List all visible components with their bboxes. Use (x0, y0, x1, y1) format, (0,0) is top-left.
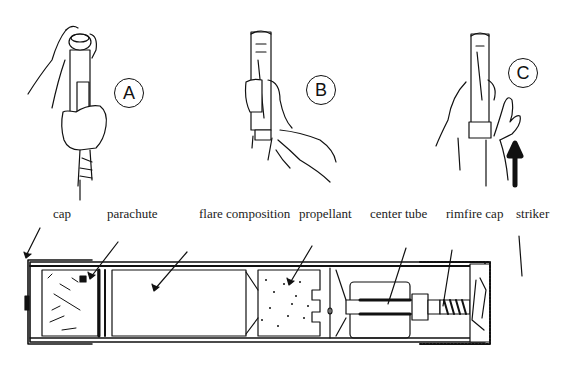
label-parachute: parachute (107, 206, 158, 222)
label-rimfire-cap: rimfire cap (446, 206, 503, 222)
label-flare-composition: flare composition (199, 206, 290, 222)
step-a-badge: A (114, 78, 144, 108)
step-c-label: C (517, 63, 530, 84)
step-b-drawing (246, 31, 337, 182)
step-c-drawing (436, 33, 520, 186)
flare-diagram-drawing (0, 0, 575, 368)
upward-arrow-icon (509, 143, 521, 185)
label-center-tube: center tube (370, 206, 427, 222)
step-c-badge: C (508, 58, 538, 88)
step-b-badge: B (306, 75, 336, 105)
label-cap: cap (53, 206, 71, 222)
step-b-label: B (315, 80, 327, 101)
label-propellant: propellant (299, 206, 352, 222)
label-striker: striker (516, 206, 549, 222)
step-a-label: A (123, 83, 135, 104)
step-a-drawing (28, 26, 106, 200)
